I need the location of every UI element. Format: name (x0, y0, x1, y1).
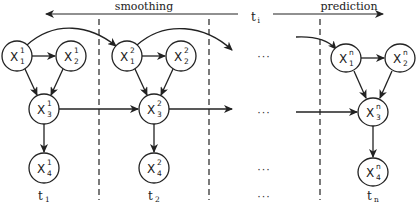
node-x2-1: X 1 2 (56, 41, 86, 71)
svg-text:X: X (147, 162, 155, 176)
svg-text:1: 1 (74, 46, 79, 55)
slice-n: X n 1 X n 2 X n 3 X n 4 t n (331, 44, 415, 204)
svg-text:2: 2 (184, 57, 189, 66)
slice-2: X 2 1 X 2 2 X 2 3 X 2 4 t 2 (112, 41, 196, 204)
svg-text:X: X (339, 52, 347, 66)
svg-text:n: n (374, 195, 379, 204)
svg-text:X: X (147, 103, 155, 117)
time-label-tn: t n (367, 189, 379, 204)
ellipsis-row-4: ··· (257, 163, 271, 176)
node-x3-1: X 1 3 (29, 94, 59, 124)
svg-text:2: 2 (130, 46, 135, 55)
time-label-t1: t 1 (38, 189, 50, 204)
time-label-t2: t 2 (148, 189, 160, 204)
svg-text:X: X (37, 162, 45, 176)
node-x1-2: X 2 1 (112, 41, 142, 71)
current-time-label: t i (251, 10, 261, 25)
dbn-diagram: smoothing t i prediction X 1 1 X 1 2 (0, 0, 420, 205)
node-x3-2: X 2 3 (139, 94, 169, 124)
svg-text:t: t (367, 189, 372, 203)
svg-text:t: t (148, 189, 153, 203)
svg-text:1: 1 (349, 59, 354, 68)
svg-text:2: 2 (184, 46, 189, 55)
svg-text:2: 2 (74, 57, 79, 66)
svg-text:2: 2 (157, 158, 162, 167)
smoothing-label: smoothing (115, 0, 173, 13)
svg-text:1: 1 (47, 158, 52, 167)
svg-text:n: n (376, 102, 381, 111)
svg-text:4: 4 (376, 173, 381, 182)
svg-text:i: i (258, 16, 261, 25)
node-x2-n: X n 2 (385, 44, 415, 72)
edge-x1-prev-to-slicen (296, 37, 336, 49)
svg-text:2: 2 (403, 59, 408, 68)
svg-text:X: X (10, 50, 18, 64)
svg-text:1: 1 (45, 195, 50, 204)
ellipsis-time: ··· (257, 190, 271, 203)
slice-1: X 1 1 X 1 2 X 1 3 X 1 4 t 1 (2, 41, 86, 204)
svg-text:1: 1 (47, 99, 52, 108)
svg-text:n: n (349, 48, 354, 57)
node-x4-2: X 2 4 (139, 153, 169, 183)
svg-text:X: X (366, 106, 374, 120)
node-x2-2: X 2 2 (166, 41, 196, 71)
svg-text:3: 3 (47, 110, 52, 119)
node-x4-1: X 1 4 (29, 153, 59, 183)
svg-text:2: 2 (157, 99, 162, 108)
svg-text:n: n (376, 162, 381, 171)
svg-text:n: n (403, 48, 408, 57)
svg-text:X: X (37, 103, 45, 117)
svg-text:3: 3 (376, 113, 381, 122)
svg-text:4: 4 (47, 169, 52, 178)
svg-text:X: X (366, 166, 374, 180)
svg-text:4: 4 (157, 169, 162, 178)
prediction-label: prediction (320, 0, 377, 13)
node-x4-n: X n 4 (358, 158, 388, 186)
svg-text:X: X (64, 50, 72, 64)
svg-text:X: X (120, 50, 128, 64)
svg-text:2: 2 (155, 195, 160, 204)
svg-text:t: t (38, 189, 43, 203)
node-x1-1: X 1 1 (2, 41, 32, 71)
svg-text:X: X (174, 50, 182, 64)
svg-text:1: 1 (130, 57, 135, 66)
svg-text:t: t (251, 10, 256, 24)
ellipsis-row-1: ··· (257, 50, 271, 63)
svg-text:X: X (393, 52, 401, 66)
node-x1-n: X n 1 (331, 44, 361, 72)
node-x3-n: X n 3 (358, 98, 388, 126)
svg-text:1: 1 (20, 46, 25, 55)
svg-text:3: 3 (157, 110, 162, 119)
ellipsis-row-3: ··· (257, 106, 271, 119)
svg-text:1: 1 (20, 57, 25, 66)
